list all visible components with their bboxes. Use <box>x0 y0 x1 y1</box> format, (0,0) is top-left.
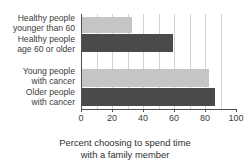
category-label-line2: with cancer <box>0 77 75 87</box>
bar-young-cancer <box>82 69 209 87</box>
x-tick-label-20: 20 <box>107 113 117 123</box>
x-tick-label-0: 0 <box>78 113 83 123</box>
x-axis-title: Percent choosing to spend time with a fa… <box>0 137 250 160</box>
category-label-young-cancer: Young people with cancer <box>0 67 75 86</box>
category-label-healthy-young: Healthy people younger than 60 <box>0 14 75 33</box>
x-axis-line <box>81 109 237 110</box>
y-axis-line <box>81 14 82 109</box>
x-tick-100 <box>236 109 237 112</box>
chart-title <box>0 0 250 2</box>
bar-healthy-older <box>82 34 173 52</box>
category-label-healthy-older: Healthy people age 60 or older <box>0 35 75 54</box>
category-labels: Healthy people younger than 60 Healthy p… <box>0 14 78 109</box>
bar-older-cancer <box>82 88 215 106</box>
x-tick-20 <box>112 109 113 112</box>
x-tick-40 <box>143 109 144 112</box>
x-axis-title-line1: Percent choosing to spend time <box>0 137 250 149</box>
x-tick-label-100: 100 <box>228 113 243 123</box>
category-label-older-cancer: Older people with cancer <box>0 88 75 107</box>
gridline-90 <box>221 14 222 109</box>
x-tick-60 <box>174 109 175 112</box>
x-tick-0 <box>81 109 82 112</box>
x-axis-title-line2: with a family member <box>0 149 250 161</box>
bar-healthy-young <box>82 17 132 33</box>
category-label-line2: age 60 or older <box>0 45 75 55</box>
plot-area: 020406080100 <box>81 14 236 109</box>
x-tick-label-60: 60 <box>169 113 179 123</box>
x-tick-label-80: 80 <box>200 113 210 123</box>
category-label-line2: younger than 60 <box>0 24 75 34</box>
x-tick-80 <box>205 109 206 112</box>
category-label-line2: with cancer <box>0 98 75 108</box>
x-tick-label-40: 40 <box>138 113 148 123</box>
bar-chart: Healthy people younger than 60 Healthy p… <box>0 0 250 166</box>
